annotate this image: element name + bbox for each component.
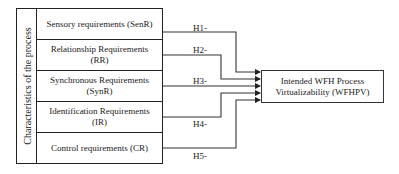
h5-arrow bbox=[163, 100, 260, 148]
h4-arrow bbox=[163, 93, 260, 117]
hypothesis-h5-label: H5- bbox=[193, 151, 207, 161]
hypothesis-h1-label: H1- bbox=[193, 23, 207, 33]
h1-arrow bbox=[163, 32, 260, 72]
h2-arrow bbox=[163, 55, 260, 79]
outcome-wfhpv: Intended WFH Process Virtualizability (W… bbox=[261, 70, 384, 103]
hypothesis-h2-label: H2- bbox=[193, 45, 207, 55]
hypothesis-h4-label: H4- bbox=[193, 119, 207, 129]
hypothesis-h3-label: H3- bbox=[193, 76, 207, 86]
